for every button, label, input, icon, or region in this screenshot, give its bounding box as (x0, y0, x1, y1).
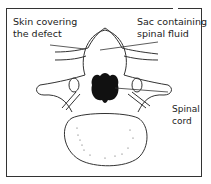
skin-pointer (50, 45, 85, 49)
label-skin-line2: the defect (13, 28, 77, 40)
spinal-cord (91, 73, 118, 103)
right-process (124, 75, 171, 112)
label-cord: Spinal cord (172, 104, 200, 127)
sac-pointer (100, 42, 158, 50)
vertebral-body (64, 114, 147, 166)
label-cord-line2: cord (172, 116, 200, 128)
sac (83, 30, 126, 75)
label-sac: Sac containing spinal fluid (137, 16, 207, 39)
label-sac-line1: Sac containing (137, 16, 207, 28)
label-cord-line1: Spinal (172, 104, 200, 116)
label-sac-line2: spinal fluid (137, 28, 207, 40)
label-skin-line1: Skin covering (13, 16, 77, 28)
label-skin: Skin covering the defect (13, 16, 77, 39)
